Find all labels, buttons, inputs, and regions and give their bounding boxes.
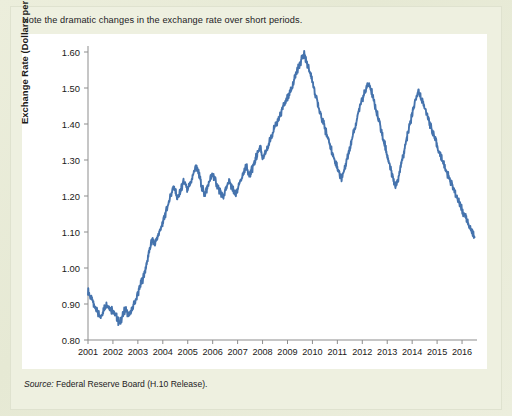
y-axis-ticks <box>84 52 88 340</box>
x-axis-ticks <box>88 340 462 344</box>
chart-svg <box>22 34 487 369</box>
figure-container: Note the dramatic changes in the exchang… <box>0 0 512 416</box>
figure-caption: Note the dramatic changes in the exchang… <box>22 14 472 26</box>
chart-plot-panel: Exchange Rate (Dollars per Euro) 1.601.5… <box>22 34 487 369</box>
figure-source-note: Source: Federal Reserve Board (H.10 Rele… <box>24 379 207 389</box>
source-text: Federal Reserve Board (H.10 Release). <box>54 379 208 389</box>
source-label: Source: <box>24 379 54 389</box>
exchange-rate-line <box>88 51 475 325</box>
